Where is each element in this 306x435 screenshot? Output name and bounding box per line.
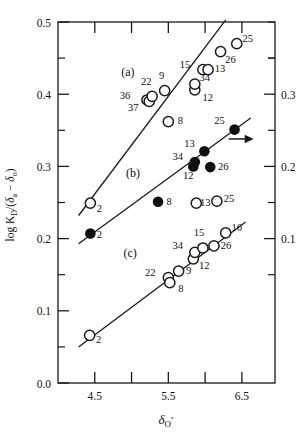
point-label-13: 13 (184, 138, 195, 149)
y-tick-label-right: 0.3 (281, 89, 296, 101)
point-label-8: 8 (178, 115, 183, 126)
point-label-34: 34 (200, 72, 211, 83)
y-axis-right-ticks: 0.10.20.3 (264, 22, 296, 275)
y-tick-label-left: 0.5 (37, 17, 52, 29)
point-label-2: 2 (96, 334, 101, 345)
data-point-26 (215, 47, 225, 57)
point-label-25: 25 (224, 193, 235, 204)
curve-label-c: (c) (123, 246, 136, 260)
point-label-26: 26 (218, 161, 229, 172)
point-label-9: 9 (159, 70, 164, 81)
y-tick-label-left: 0.2 (37, 233, 52, 245)
curve-label-a: (a) (121, 65, 134, 79)
y-tick-label-right: 0.1 (281, 233, 296, 245)
arrow-annotation (229, 135, 254, 143)
data-point-26 (209, 241, 219, 251)
point-label-36: 36 (120, 90, 131, 101)
data-point-34 (190, 79, 200, 89)
point-label-8: 8 (178, 283, 183, 294)
point-label-37: 37 (128, 102, 139, 113)
data-point-34 (190, 157, 201, 168)
y-tick-label-left: 0.4 (37, 89, 52, 101)
x-axis-title: δO′ (159, 412, 174, 429)
data-point-8 (163, 117, 173, 127)
data-point-2 (85, 228, 96, 239)
point-label-22: 22 (141, 76, 152, 87)
data-point-25 (229, 124, 240, 135)
data-point-15 (198, 243, 208, 253)
point-label-15: 15 (180, 59, 191, 70)
point-label-25: 25 (242, 33, 253, 44)
point-label-8: 8 (166, 196, 171, 207)
point-label-25: 25 (214, 115, 225, 126)
x-tick-label: 6.5 (235, 390, 250, 402)
point-label-16: 16 (231, 222, 242, 233)
point-label-12: 12 (203, 92, 214, 103)
data-point-25 (212, 196, 222, 206)
data-point-labels: 2363722981234151326252812341326251325222… (96, 33, 253, 346)
point-label-26: 26 (225, 54, 236, 65)
y-tick-label-right: 0.2 (281, 161, 296, 173)
y-tick-label-left: 0.3 (37, 161, 52, 173)
point-label-2: 2 (97, 203, 102, 214)
y-axis-title: log KD/(δa − δo) (4, 168, 19, 241)
point-label-13: 13 (215, 63, 226, 74)
trend-line-a (79, 20, 226, 216)
data-point-26 (205, 162, 216, 173)
data-point-16 (221, 228, 231, 238)
point-label-26: 26 (221, 240, 232, 251)
data-markers (85, 39, 242, 341)
data-point-9 (160, 85, 170, 95)
y-tick-label-left: 0.0 (37, 378, 52, 390)
data-point-25 (232, 39, 242, 49)
scatter-chart: 0.00.10.20.30.40.5 0.10.20.3 4.55.56.5 2… (0, 0, 306, 435)
data-point-2 (85, 330, 95, 340)
curve-label-b: (b) (126, 166, 140, 180)
y-axis-left-ticks: 0.00.10.20.30.40.5 (37, 17, 69, 390)
point-label-13: 13 (200, 197, 211, 208)
point-label-22: 22 (145, 267, 156, 278)
data-point-22 (147, 91, 157, 101)
x-axis-ticks: 4.55.56.5 (88, 22, 250, 402)
point-label-34: 34 (173, 151, 184, 162)
data-point-13 (199, 146, 210, 157)
chart-annotations (229, 135, 254, 143)
point-label-12: 12 (183, 170, 194, 181)
point-label-9: 9 (186, 265, 191, 276)
point-label-34: 34 (173, 240, 184, 251)
data-point-8 (153, 196, 164, 207)
data-point-8 (165, 278, 175, 288)
point-label-15: 15 (194, 227, 205, 238)
x-tick-label: 5.5 (161, 390, 176, 402)
point-label-2: 2 (97, 229, 102, 240)
point-label-12: 12 (199, 260, 210, 271)
x-tick-label: 4.5 (88, 390, 103, 402)
data-point-9 (174, 266, 184, 276)
y-tick-label-left: 0.1 (37, 305, 52, 317)
data-point-2 (85, 198, 95, 208)
figure-panel: 0.00.10.20.30.40.5 0.10.20.3 4.55.56.5 2… (0, 0, 306, 435)
